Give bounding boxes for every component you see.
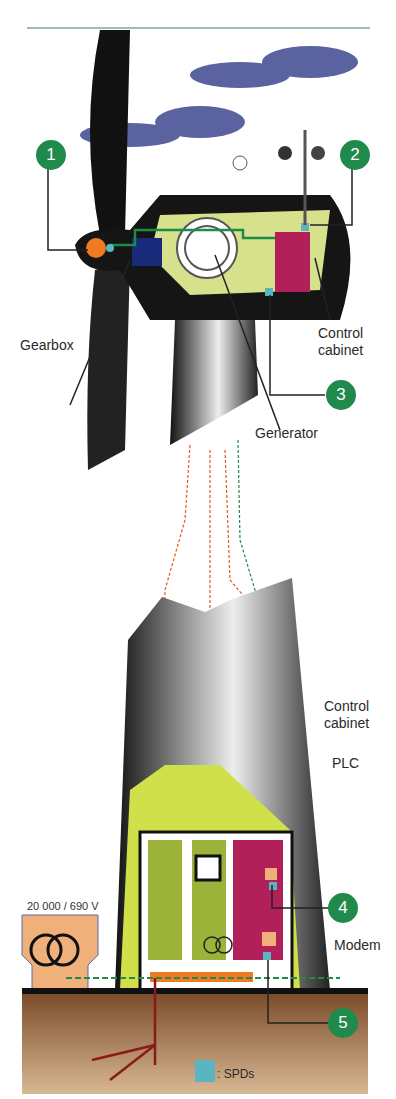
hub bbox=[86, 238, 106, 258]
plc bbox=[265, 868, 277, 880]
badge-3: 3 bbox=[326, 380, 356, 410]
label-modem: Modem bbox=[334, 937, 381, 954]
spd bbox=[263, 952, 271, 960]
rotor-blade-top bbox=[90, 30, 130, 235]
spd bbox=[265, 288, 273, 296]
light-icon bbox=[233, 156, 247, 170]
badge-1: 1 bbox=[36, 140, 66, 170]
gearbox bbox=[132, 238, 162, 266]
control-cabinet-top bbox=[275, 232, 310, 292]
badge-4: 4 bbox=[328, 893, 358, 923]
label-plc: PLC bbox=[332, 755, 359, 772]
switchgear-panel bbox=[148, 840, 182, 960]
modem bbox=[262, 932, 276, 946]
label-generator: Generator bbox=[255, 425, 318, 442]
converter-icon bbox=[196, 856, 220, 880]
label-control-cabinet-top: Control cabinet bbox=[318, 325, 363, 359]
spd bbox=[269, 882, 277, 890]
badge-5: 5 bbox=[328, 1008, 358, 1038]
badge-2: 2 bbox=[340, 140, 370, 170]
label-control-cabinet-bottom: Control cabinet bbox=[324, 698, 369, 732]
label-transformer-voltage: 20 000 / 690 V bbox=[27, 900, 99, 912]
label-gearbox: Gearbox bbox=[20, 337, 74, 354]
spd-legend-swatch bbox=[195, 1060, 215, 1082]
rotor-blade-bottom bbox=[87, 260, 130, 470]
legend-spds: : SPDs bbox=[217, 1066, 254, 1083]
spd bbox=[106, 244, 114, 252]
upper-tower bbox=[170, 320, 258, 445]
